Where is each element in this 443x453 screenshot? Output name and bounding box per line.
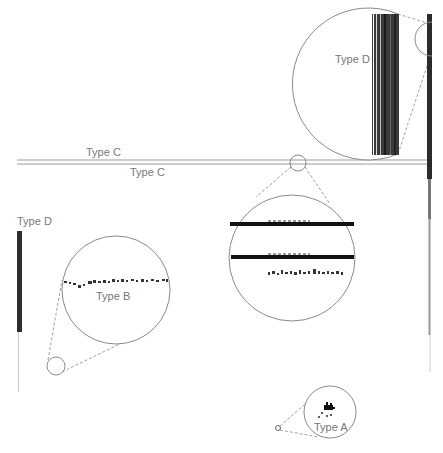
- type-c-inset: [229, 155, 355, 321]
- label-type-d-left: Type D: [17, 215, 52, 227]
- type-b-inset: [47, 236, 170, 375]
- type-d-inset: [292, 8, 432, 160]
- type-c-lines: [17, 160, 428, 164]
- label-type-a: Type A: [314, 421, 348, 433]
- right-vertical-bar: [427, 14, 432, 372]
- label-type-c-bottom: Type C: [130, 166, 165, 178]
- label-type-d-inset: Type D: [335, 53, 370, 65]
- left-vertical-bar: [17, 231, 22, 392]
- label-type-b: Type B: [96, 290, 130, 302]
- label-type-c-top: Type C: [86, 146, 121, 158]
- diagram-canvas: [0, 0, 443, 453]
